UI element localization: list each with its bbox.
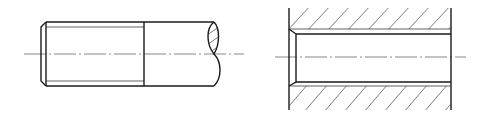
internal-thread-view bbox=[275, 4, 472, 112]
thread-drawing bbox=[0, 0, 484, 124]
break-line-bottom bbox=[214, 54, 220, 86]
countersink bbox=[289, 29, 296, 86]
hatch-bottom bbox=[284, 84, 468, 112]
hatch-top bbox=[286, 4, 472, 32]
external-thread-view bbox=[24, 22, 244, 86]
